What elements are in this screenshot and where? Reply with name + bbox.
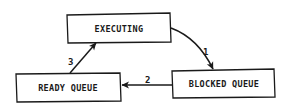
process-state-diagram: EXECUTING READY QUEUE BLOCKED QUEUE 1 2 … bbox=[0, 0, 288, 111]
ready-queue-label: READY QUEUE bbox=[38, 83, 98, 93]
edge-blocked-to-ready: 2 bbox=[122, 75, 172, 85]
node-executing: EXECUTING bbox=[67, 13, 171, 43]
edge-ready-to-executing: 3 bbox=[68, 43, 96, 73]
edge-3-label: 3 bbox=[68, 57, 73, 67]
edge-1-label: 1 bbox=[203, 47, 208, 57]
arrow-3-icon bbox=[70, 43, 96, 73]
edge-executing-to-blocked: 1 bbox=[171, 28, 213, 69]
blocked-queue-label: BLOCKED QUEUE bbox=[189, 79, 259, 89]
node-blocked-queue: BLOCKED QUEUE bbox=[172, 69, 275, 98]
node-ready-queue: READY QUEUE bbox=[16, 73, 121, 102]
executing-label: EXECUTING bbox=[95, 24, 144, 34]
edge-2-label: 2 bbox=[145, 75, 150, 85]
